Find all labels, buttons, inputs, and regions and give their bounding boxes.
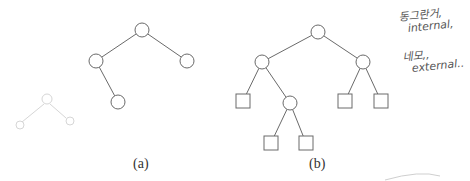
tree-edge bbox=[99, 67, 114, 96]
tree-b bbox=[236, 25, 388, 150]
tree-a bbox=[89, 23, 194, 109]
caption-a: (a) bbox=[133, 156, 149, 172]
handwritten-note-internal: 동그란거, internal, bbox=[398, 6, 454, 35]
internal-node-circle bbox=[89, 54, 103, 68]
internal-node-circle bbox=[135, 23, 149, 37]
internal-node-circle bbox=[356, 55, 370, 69]
external-node-square bbox=[299, 136, 313, 150]
tree-edge bbox=[148, 34, 181, 57]
tree-edge bbox=[366, 68, 378, 94]
external-node-square bbox=[338, 94, 352, 108]
faint-sketch bbox=[16, 94, 74, 129]
tree-edge bbox=[268, 35, 312, 58]
tree-edge bbox=[266, 68, 286, 97]
caption-b: (b) bbox=[309, 156, 325, 172]
internal-node-circle bbox=[311, 25, 325, 39]
tree-edge bbox=[324, 36, 357, 58]
internal-node-circle bbox=[255, 55, 269, 69]
tree-edge bbox=[102, 34, 136, 57]
internal-node-circle bbox=[180, 54, 194, 68]
external-node-square bbox=[236, 94, 250, 108]
tree-edge bbox=[274, 109, 287, 136]
tree-edge bbox=[246, 68, 259, 94]
external-node-square bbox=[374, 94, 388, 108]
faint-arc bbox=[385, 174, 440, 180]
tree-edge bbox=[348, 68, 360, 94]
tree-edge bbox=[293, 109, 304, 136]
internal-node-circle bbox=[111, 95, 125, 109]
external-node-square bbox=[264, 136, 278, 150]
internal-node-circle bbox=[283, 96, 297, 110]
